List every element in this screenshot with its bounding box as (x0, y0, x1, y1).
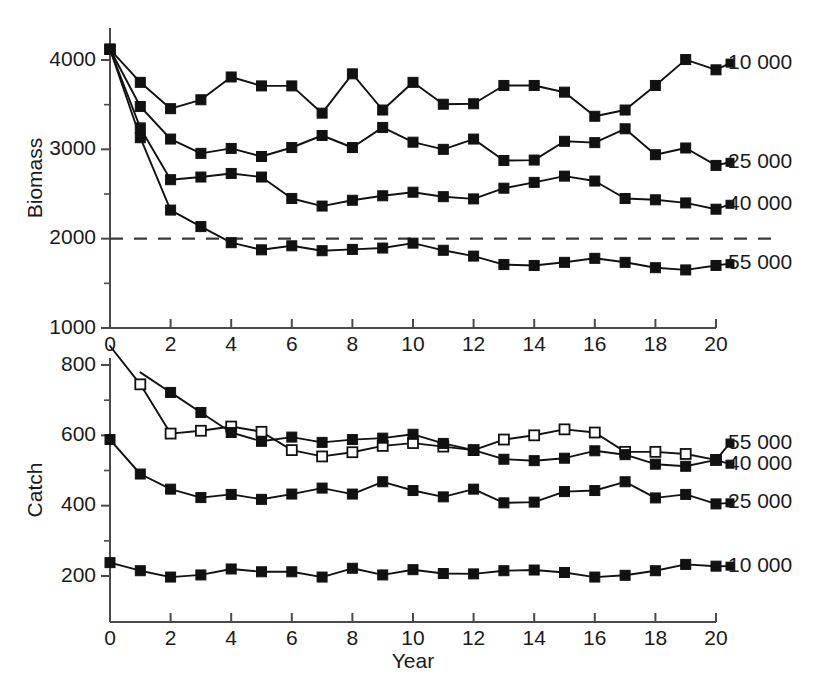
data-point (317, 108, 327, 118)
data-point (257, 494, 267, 504)
data-point (469, 445, 479, 455)
x-tick-label: 8 (347, 332, 359, 355)
data-point (408, 565, 418, 575)
x-tick-label: 4 (225, 626, 237, 649)
data-point (499, 454, 509, 464)
data-point (378, 477, 388, 487)
x-tick-label: 12 (462, 626, 485, 649)
data-point (347, 143, 357, 153)
y-tick-label: 4000 (49, 47, 96, 70)
data-point (529, 177, 539, 187)
series-line (110, 49, 730, 209)
data-point (317, 572, 327, 582)
data-point (196, 222, 206, 232)
data-point (257, 172, 267, 182)
data-point (408, 429, 418, 439)
data-point (196, 570, 206, 580)
data-point (681, 143, 691, 153)
data-point (257, 245, 267, 255)
data-point-open (135, 379, 145, 389)
data-point (650, 150, 660, 160)
data-point-open (317, 451, 327, 461)
data-point (650, 195, 660, 205)
data-point (681, 489, 691, 499)
data-point (469, 251, 479, 261)
x-tick-label: 10 (401, 332, 424, 355)
data-point (529, 155, 539, 165)
data-point (287, 81, 297, 91)
data-point-open (499, 435, 509, 445)
data-point (378, 191, 388, 201)
data-point (196, 148, 206, 158)
data-point (529, 497, 539, 507)
x-tick-label: 2 (165, 332, 177, 355)
x-tick-label: 20 (704, 332, 727, 355)
data-point (135, 77, 145, 87)
y-tick-label: 400 (61, 492, 96, 515)
data-point (560, 453, 570, 463)
data-point (196, 407, 206, 417)
series-55000: 55 000 (105, 44, 792, 275)
data-point (620, 193, 630, 203)
x-tick-label: 2 (165, 626, 177, 649)
data-point (196, 172, 206, 182)
series-label-40000: 40 000 (728, 451, 792, 474)
x-axis-title: Year (392, 649, 434, 672)
x-tick-label: 18 (644, 626, 667, 649)
data-point (135, 101, 145, 111)
data-point (347, 435, 357, 445)
data-point (650, 493, 660, 503)
data-point (347, 195, 357, 205)
data-point (590, 176, 600, 186)
data-point (257, 81, 267, 91)
data-point (378, 433, 388, 443)
data-point (317, 130, 327, 140)
series-40000: 40 000 (140, 372, 792, 473)
data-point (711, 260, 721, 270)
data-point (469, 134, 479, 144)
x-tick-label: 14 (523, 626, 547, 649)
data-point (226, 72, 236, 82)
data-point (469, 484, 479, 494)
data-point-open (681, 449, 691, 459)
y-tick-label: 800 (61, 352, 96, 375)
data-point (226, 489, 236, 499)
two-panel-line-chart: 10002000300040000246810121416182010 0002… (0, 0, 816, 689)
data-point (347, 244, 357, 254)
data-point (166, 484, 176, 494)
x-tick-label: 14 (523, 332, 547, 355)
series-line (171, 392, 730, 466)
data-point (135, 133, 145, 143)
data-point (438, 245, 448, 255)
x-tick-label: 6 (286, 626, 298, 649)
y-tick-label: 1000 (49, 315, 96, 338)
series-55000: 55 000 (110, 346, 792, 465)
series-40000: 40 000 (105, 44, 792, 214)
x-tick-label: 8 (347, 626, 359, 649)
data-point (681, 461, 691, 471)
data-point (408, 137, 418, 147)
x-tick-label: 0 (104, 626, 116, 649)
data-point (408, 77, 418, 87)
data-point (166, 572, 176, 582)
data-point (711, 499, 721, 509)
data-point-open (650, 447, 660, 457)
data-point (347, 69, 357, 79)
x-tick-label: 16 (583, 332, 606, 355)
data-point (711, 561, 721, 571)
data-point (499, 80, 509, 90)
series-label-10000: 10 000 (728, 50, 792, 73)
data-point (711, 455, 721, 465)
data-point (438, 192, 448, 202)
panel-bottom: 2004006008000246810121416182055 00040 00… (23, 346, 792, 672)
y-axis-title-top: Biomass (23, 138, 46, 219)
series-10000: 10 000 (105, 44, 792, 121)
data-point (226, 238, 236, 248)
data-point (499, 260, 509, 270)
data-point (257, 151, 267, 161)
data-point (560, 567, 570, 577)
data-point (499, 566, 509, 576)
data-point (257, 567, 267, 577)
data-point (620, 105, 630, 115)
data-point (378, 570, 388, 580)
